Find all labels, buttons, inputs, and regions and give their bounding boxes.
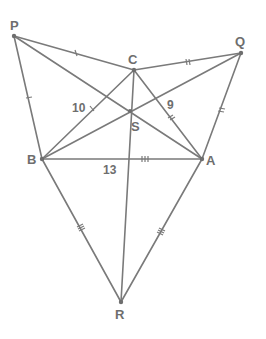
point-B bbox=[40, 157, 44, 161]
edge-CR bbox=[121, 70, 134, 302]
length-labels: 10 9 13 bbox=[72, 98, 174, 177]
edges bbox=[14, 36, 241, 302]
tick-CQ-2 bbox=[189, 59, 190, 65]
label-A: A bbox=[206, 153, 216, 168]
label-R: R bbox=[115, 307, 125, 322]
points bbox=[12, 34, 243, 304]
tick-CQ-1 bbox=[186, 59, 187, 65]
point-A bbox=[200, 157, 204, 161]
label-Q: Q bbox=[235, 34, 245, 49]
point-Q bbox=[239, 51, 243, 55]
edge-QA bbox=[202, 53, 241, 159]
label-S: S bbox=[131, 119, 140, 134]
point-R bbox=[119, 300, 123, 304]
point-P bbox=[12, 34, 16, 38]
edge-CB bbox=[42, 70, 134, 159]
point-labels: P C Q S B A R bbox=[10, 18, 245, 322]
length-AB: 13 bbox=[103, 163, 117, 177]
point-C bbox=[132, 68, 136, 72]
edge-PA bbox=[14, 36, 202, 159]
label-P: P bbox=[10, 18, 19, 33]
tick-PB bbox=[26, 97, 32, 98]
edge-AR bbox=[121, 159, 202, 302]
edge-BR bbox=[42, 159, 121, 302]
geometry-diagram: P C Q S B A R 10 9 13 bbox=[0, 0, 266, 339]
length-BC: 10 bbox=[72, 101, 86, 115]
point-S bbox=[128, 109, 132, 113]
edge-CA bbox=[134, 70, 202, 159]
label-C: C bbox=[128, 52, 138, 67]
length-CA: 9 bbox=[167, 98, 174, 112]
edge-PC bbox=[14, 36, 134, 70]
label-B: B bbox=[27, 152, 36, 167]
